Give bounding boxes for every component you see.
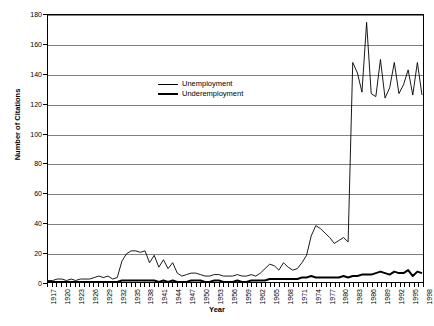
x-tick-label: 1998: [426, 289, 433, 305]
x-tick-label: 1923: [78, 289, 85, 305]
x-tick-mark: [395, 283, 396, 287]
x-tick-mark: [293, 283, 294, 287]
x-tick-mark: [172, 283, 173, 287]
series-line-unemployment: [48, 22, 422, 280]
legend-item-underemployment: Underemployment: [158, 89, 243, 99]
x-tick-label: 1980: [342, 289, 349, 305]
x-tick-mark: [409, 283, 410, 287]
x-tick-mark: [200, 283, 201, 287]
x-tick-mark: [279, 283, 280, 287]
citations-line-chart: Number of Citations 02040608010012014016…: [0, 0, 434, 326]
y-tick-label: 60: [34, 190, 42, 197]
x-tick-mark: [307, 283, 308, 287]
x-tick-mark: [377, 283, 378, 287]
x-tick-mark: [186, 283, 187, 287]
x-tick-label: 1926: [92, 289, 99, 305]
x-tick-mark: [367, 283, 368, 287]
x-tick-label: 1989: [384, 289, 391, 305]
y-tick-label: 20: [34, 250, 42, 257]
x-tick-mark: [265, 283, 266, 287]
legend-swatch-underemployment-icon: [158, 93, 178, 95]
x-tick-label: 1932: [120, 289, 127, 305]
x-tick-label: 1959: [245, 289, 252, 305]
x-tick-mark: [93, 283, 94, 287]
x-tick-mark: [223, 283, 224, 287]
x-tick-mark: [339, 283, 340, 287]
x-tick-mark: [418, 283, 419, 287]
x-tick-mark: [158, 283, 159, 287]
y-tick-label: 140: [30, 70, 42, 77]
x-tick-mark: [112, 283, 113, 287]
x-tick-mark: [251, 283, 252, 287]
x-tick-mark: [214, 283, 215, 287]
x-tick-label: 1968: [287, 289, 294, 305]
x-tick-mark: [196, 283, 197, 287]
y-tick-label: 120: [30, 100, 42, 107]
x-tick-label: 1971: [301, 289, 308, 305]
y-axis: 020406080100120140160180: [0, 0, 47, 283]
x-tick-mark: [233, 283, 234, 287]
x-tick-mark: [386, 283, 387, 287]
x-tick-mark: [89, 283, 90, 287]
x-tick-label: 1953: [217, 289, 224, 305]
x-tick-label: 1938: [147, 289, 154, 305]
x-tick-mark: [61, 283, 62, 287]
x-tick-mark: [312, 283, 313, 287]
y-tick-label: 80: [34, 160, 42, 167]
x-tick-label: 1947: [189, 289, 196, 305]
x-tick-mark: [330, 283, 331, 287]
x-tick-mark: [391, 283, 392, 287]
x-tick-mark: [135, 283, 136, 287]
x-tick-mark: [84, 283, 85, 287]
x-tick-label: 1956: [231, 289, 238, 305]
x-tick-mark: [56, 283, 57, 287]
x-tick-mark: [274, 283, 275, 287]
x-axis: 1917192019231926192919321935193819411944…: [47, 283, 424, 291]
x-tick-mark: [168, 283, 169, 287]
x-tick-label: 1929: [106, 289, 113, 305]
x-tick-mark: [284, 283, 285, 287]
x-tick-mark: [321, 283, 322, 287]
x-tick-label: 1992: [398, 289, 405, 305]
x-tick-mark: [242, 283, 243, 287]
x-tick-label: 1974: [315, 289, 322, 305]
x-tick-mark: [400, 283, 401, 287]
x-tick-mark: [98, 283, 99, 287]
y-tick-label: 40: [34, 220, 42, 227]
x-tick-mark: [121, 283, 122, 287]
x-tick-mark: [191, 283, 192, 287]
x-tick-mark: [47, 283, 48, 287]
x-tick-mark: [404, 283, 405, 287]
x-tick-mark: [372, 283, 373, 287]
x-tick-mark: [182, 283, 183, 287]
x-tick-mark: [228, 283, 229, 287]
x-tick-mark: [414, 283, 415, 287]
x-tick-mark: [237, 283, 238, 287]
x-tick-mark: [423, 283, 424, 287]
x-tick-mark: [126, 283, 127, 287]
x-tick-mark: [353, 283, 354, 287]
x-tick-label: 1995: [412, 289, 419, 305]
x-tick-label: 1941: [161, 289, 168, 305]
x-tick-label: 1935: [134, 289, 141, 305]
legend-swatch-unemployment-icon: [158, 84, 178, 85]
x-tick-mark: [163, 283, 164, 287]
x-tick-label: 1986: [370, 289, 377, 305]
chart-legend: Unemployment Underemployment: [155, 78, 246, 100]
x-tick-mark: [140, 283, 141, 287]
x-tick-mark: [79, 283, 80, 287]
x-tick-mark: [247, 283, 248, 287]
x-tick-mark: [298, 283, 299, 287]
plot-area: [47, 14, 424, 283]
x-tick-mark: [205, 283, 206, 287]
legend-item-unemployment: Unemployment: [158, 79, 243, 89]
x-tick-mark: [154, 283, 155, 287]
series-container: [48, 15, 423, 282]
x-tick-mark: [363, 283, 364, 287]
x-tick-mark: [131, 283, 132, 287]
x-tick-label: 1920: [64, 289, 71, 305]
legend-label-underemployment: Underemployment: [182, 90, 243, 98]
x-tick-mark: [335, 283, 336, 287]
y-tick-label: 160: [30, 40, 42, 47]
x-tick-mark: [381, 283, 382, 287]
